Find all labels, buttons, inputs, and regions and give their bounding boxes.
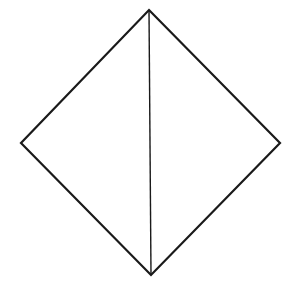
diamond-diagram [0,0,301,297]
